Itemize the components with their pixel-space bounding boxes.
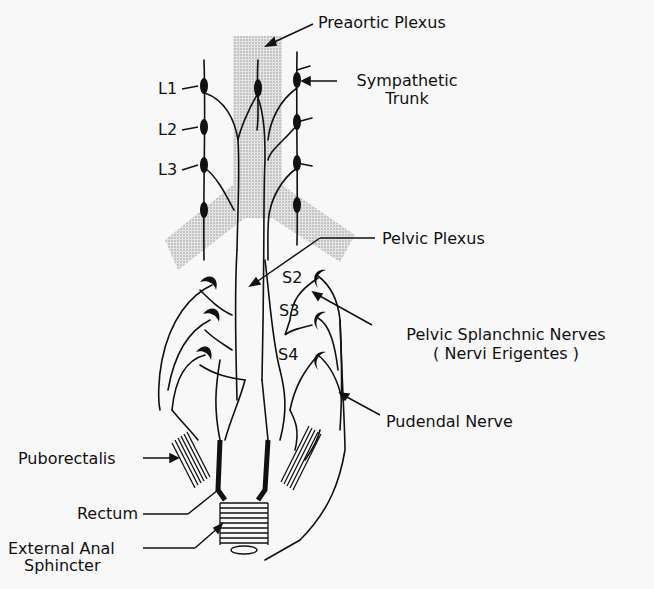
label-pelvic-splanchnic-line2: ( Nervi Erigentes ) <box>370 345 642 363</box>
label-pelvic-splanchnic-line1: Pelvic Splanchnic Nerves <box>370 326 642 344</box>
external-anal-sphincter <box>220 503 268 554</box>
label-puborectalis: Puborectalis <box>18 450 116 468</box>
label-sympathetic-trunk-line1: Sympathetic <box>340 72 474 90</box>
label-s4: S4 <box>278 346 298 364</box>
label-s3: S3 <box>279 302 299 320</box>
label-sympathetic-trunk-line2: Trunk <box>340 90 474 108</box>
label-l3: L3 <box>158 161 177 179</box>
label-l1: L1 <box>158 80 177 98</box>
label-preaortic-plexus: Preaortic Plexus <box>318 14 446 32</box>
aorta-stipple <box>165 36 355 270</box>
diagram-artwork <box>0 0 654 589</box>
label-l2: L2 <box>158 121 177 139</box>
label-rectum: Rectum <box>18 505 138 523</box>
label-pudendal-nerve: Pudendal Nerve <box>386 413 513 431</box>
sacral-roots <box>196 270 326 370</box>
label-external-anal-line2: Sphincter <box>24 557 101 575</box>
rectum-shape <box>218 440 268 500</box>
label-pelvic-plexus: Pelvic Plexus <box>382 230 485 248</box>
label-s2: S2 <box>282 269 302 287</box>
pelvic-innervation-diagram: Preaortic Plexus Sympathetic Trunk L1 L2… <box>0 0 654 589</box>
